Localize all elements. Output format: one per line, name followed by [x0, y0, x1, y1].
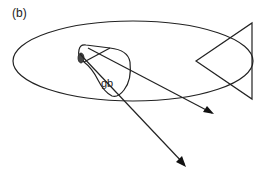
gb-region-label: gb — [101, 77, 113, 89]
fish-diagram — [0, 0, 262, 176]
arrowhead-right — [203, 106, 214, 114]
fish-body-ellipse — [13, 21, 253, 101]
panel-label: (b) — [12, 6, 27, 20]
ray-line-1 — [84, 48, 110, 62]
